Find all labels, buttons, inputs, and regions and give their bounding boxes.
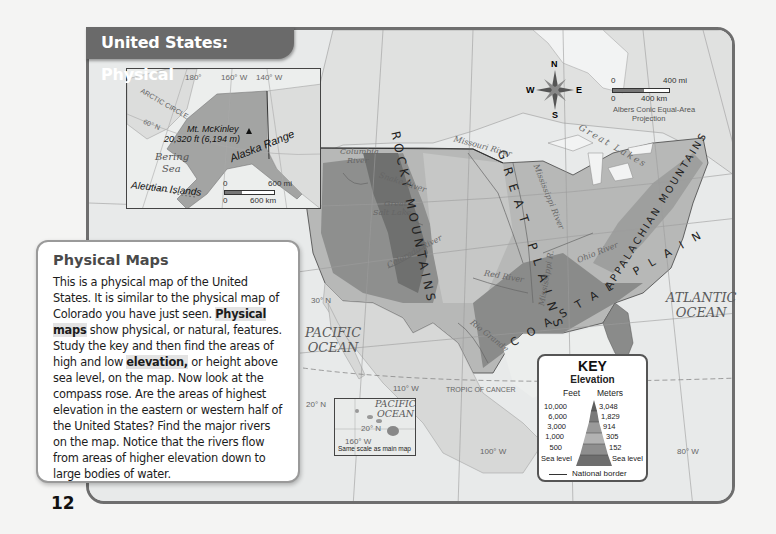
- scale-mi-label: 400 mi: [663, 76, 687, 85]
- ak-scale-km-label: 600 km: [250, 196, 276, 205]
- compass-n: N: [551, 59, 558, 69]
- ak-scale-km-zero: 0: [223, 196, 227, 205]
- compass-rose: N S W E: [530, 62, 580, 118]
- atlantic-ocean-line-2: OCEAN: [666, 305, 737, 320]
- projection-label-2: Projection: [632, 114, 665, 123]
- key-feet-3: 1,000: [545, 432, 564, 441]
- national-border-line-icon: [549, 474, 567, 475]
- key-meters-3: 305: [606, 432, 619, 441]
- physical-maps-sidebar: Physical Maps This is a physical map of …: [36, 240, 300, 483]
- hawaii-inset: PACIFIC OCEAN 20° N 160° W Same scale as…: [334, 398, 416, 456]
- mt-mckinley-label: Mt. McKinley: [187, 124, 239, 134]
- hawaii-ocean-label: PACIFIC OCEAN: [375, 399, 416, 419]
- lon-100-label: 100° W: [480, 447, 506, 456]
- compass-w: W: [526, 85, 535, 95]
- pacific-ocean-label: PACIFIC OCEAN: [305, 325, 361, 355]
- key-meters-0: 3,048: [599, 402, 618, 411]
- bering-sea-label-1: Bering: [155, 151, 189, 162]
- lon-110-label: 110° W: [393, 384, 419, 393]
- pacific-ocean-line-2: OCEAN: [305, 340, 361, 355]
- key-feet-4: 500: [549, 443, 562, 452]
- hawaii-scale-note: Same scale as main map: [338, 445, 411, 452]
- scale-km-zero: 0: [611, 94, 615, 103]
- key-meters-header: Meters: [597, 388, 623, 398]
- compass-e: E: [576, 85, 582, 95]
- tropic-of-cancer-label: TROPIC OF CANCER: [446, 386, 516, 393]
- lon-140-label: 140° W: [256, 73, 282, 82]
- key-subtitle: Elevation: [539, 374, 646, 386]
- compass-s: S: [552, 110, 558, 120]
- pacific-ocean-line-1: PACIFIC: [305, 325, 361, 340]
- hawaii-ocean-line-2: OCEAN: [375, 409, 416, 419]
- page-number: 12: [51, 493, 75, 513]
- sidebar-heading: Physical Maps: [53, 252, 286, 268]
- lon-160-label: 160° W: [221, 73, 247, 82]
- atlantic-ocean-label: ATLANTIC OCEAN: [666, 290, 737, 320]
- key-meters-4: 152: [609, 443, 622, 452]
- ak-scale-mi-label: 600 mi: [268, 179, 292, 188]
- bering-sea-label-2: Sea: [162, 163, 181, 174]
- key-border-row: National border: [539, 468, 646, 482]
- lat-20-label: 20° N: [306, 400, 326, 409]
- atlantic-ocean-line-1: ATLANTIC: [666, 290, 737, 305]
- sidebar-body: This is a physical map of the United Sta…: [53, 274, 286, 482]
- national-border-label: National border: [572, 469, 627, 478]
- elevation-legend: Feet Meters 10,000 3,048 6,000 1,829 3,0…: [539, 386, 646, 468]
- key-feet-1: 6,000: [548, 412, 567, 421]
- columbia-river-label-2: River: [347, 156, 369, 165]
- map-title: United States: Physical: [86, 27, 294, 59]
- scale-bar: [612, 88, 670, 93]
- lon-180-label: 180°: [185, 73, 202, 82]
- key-feet-5: Sea level: [541, 454, 572, 463]
- map-key: KEY Elevation Feet Meters 10,000 3,048 6…: [537, 354, 648, 482]
- key-feet-header: Feet: [563, 388, 580, 398]
- ak-scale-mi-zero: 0: [223, 179, 227, 188]
- hawaii-lat-label: 20° N: [361, 424, 381, 433]
- lat-30-label: 30° N: [311, 296, 331, 305]
- projection-label-1: Albers Conic Equal-Area: [613, 105, 695, 114]
- key-meters-5: Sea level: [612, 454, 643, 463]
- scale-km-label: 400 km: [641, 94, 667, 103]
- scale-mi-zero: 0: [611, 76, 615, 85]
- term-elevation: elevation,: [126, 355, 188, 369]
- sidebar-text-3: or height above sea level, on the map. N…: [53, 355, 282, 481]
- ak-scale-bar: [224, 190, 275, 195]
- columbia-river-label-1: Columbia: [340, 147, 379, 156]
- lon-80-label: 80° W: [677, 447, 699, 456]
- key-meters-1: 1,829: [601, 412, 620, 421]
- key-feet-0: 10,000: [544, 402, 567, 411]
- key-title: KEY: [539, 359, 646, 374]
- key-feet-2: 3,000: [547, 422, 566, 431]
- mt-mckinley-elevation: 20,320 ft (6,194 m): [164, 134, 240, 144]
- great-salt-lake-label-2: Salt Lake: [373, 208, 411, 217]
- great-salt-lake-label-1: Great: [384, 199, 407, 208]
- key-meters-2: 914: [603, 422, 616, 431]
